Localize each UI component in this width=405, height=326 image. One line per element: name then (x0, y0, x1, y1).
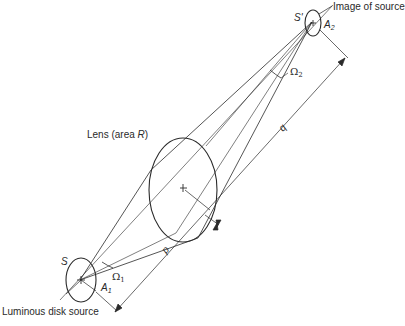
p-label: p (159, 244, 172, 257)
dimension-lines (96, 30, 348, 312)
optics-diagram: Image of source S' A2 Ω2 Lens (area R) Ω… (0, 0, 405, 326)
ray-lines (60, 5, 333, 300)
image-of-source-label: Image of source (333, 1, 405, 12)
A2-label: A2 (323, 19, 335, 31)
image-S-label: S' (294, 12, 304, 23)
omega1-label: Ω1 (112, 271, 125, 284)
lens-label: Lens (area R) (87, 129, 148, 140)
omega2-label: Ω2 (290, 66, 303, 79)
source-S-label: S (61, 256, 68, 267)
radius-ticks (66, 190, 210, 294)
A1-label: A1 (100, 282, 112, 294)
luminous-source-label: Luminous disk source (2, 306, 99, 317)
